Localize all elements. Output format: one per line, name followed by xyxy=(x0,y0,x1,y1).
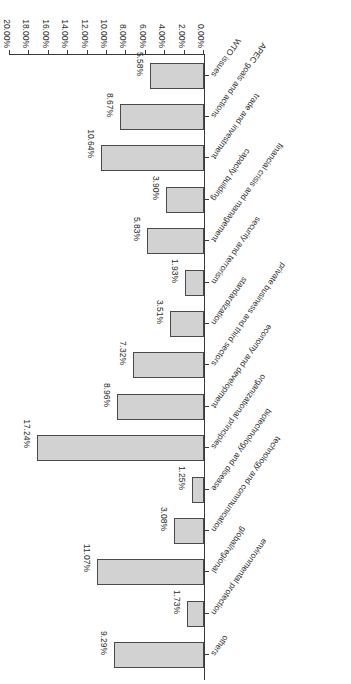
chart-plot-area: 0.00%2.00%4.00%6.00%8.00%10.00%12.00%14.… xyxy=(0,0,351,684)
bar-value-label: 11.07% xyxy=(81,544,90,572)
value-axis-tick-label: 6.00% xyxy=(137,24,146,48)
value-axis-tick-label: 20.00% xyxy=(2,19,11,48)
value-axis-tick xyxy=(184,50,185,54)
value-axis-tick xyxy=(145,50,146,54)
value-axis-tick-label: 8.00% xyxy=(118,24,127,48)
value-axis-tick xyxy=(67,50,68,54)
value-axis-tick xyxy=(164,50,165,54)
value-axis-tick xyxy=(48,50,49,54)
value-axis-tick-label: 4.00% xyxy=(157,24,166,48)
value-axis-tick-label: 0.00% xyxy=(196,24,205,48)
bar-value-label: 10.64% xyxy=(85,129,94,158)
bar-value-label: 7.32% xyxy=(118,341,127,365)
chart-figure: 0.00%2.00%4.00%6.00%8.00%10.00%12.00%14.… xyxy=(0,0,351,684)
value-axis-tick xyxy=(87,50,88,54)
value-axis-tick xyxy=(9,50,10,54)
bar-value-label: 9.29% xyxy=(98,631,107,655)
bar-value-label: 5.58% xyxy=(134,52,143,76)
value-axis-tick-label: 2.00% xyxy=(176,24,185,48)
bar-value-label: 5.83% xyxy=(132,217,141,241)
value-axis-tick xyxy=(28,50,29,54)
value-axis-tick-label: 18.00% xyxy=(21,19,30,48)
bar xyxy=(133,352,204,378)
bar-value-label: 17.24% xyxy=(21,419,30,448)
value-axis-tick-label: 12.00% xyxy=(79,19,88,48)
value-axis-tick xyxy=(203,50,204,54)
bar-value-label: 8.96% xyxy=(102,383,111,407)
bar-value-label: 8.67% xyxy=(104,93,113,117)
value-axis-line xyxy=(9,54,205,55)
value-axis-tick-label: 14.00% xyxy=(60,19,69,48)
value-axis-tick-label: 16.00% xyxy=(40,19,49,48)
value-axis-tick-label: 10.00% xyxy=(99,19,108,48)
value-axis-tick xyxy=(125,50,126,54)
bar xyxy=(120,104,204,130)
bar xyxy=(117,394,204,420)
value-axis-tick xyxy=(106,50,107,54)
